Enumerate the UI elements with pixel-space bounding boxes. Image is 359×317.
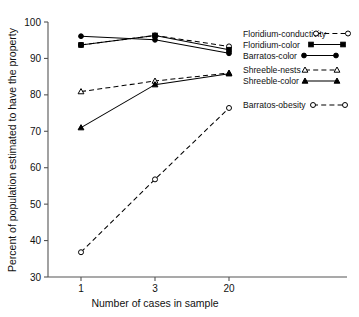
legend-label: Shreeble-color [243,76,299,86]
data-point [153,177,158,182]
legend-marker [346,31,351,36]
data-point [79,250,84,255]
x-tick-label: 1 [78,283,84,294]
line-chart: 30405060708090100 1320 Percent of popula… [0,0,359,317]
y-tick-label: 80 [30,89,42,100]
y-tick-label: 50 [30,199,42,210]
chart-container: 30405060708090100 1320 Percent of popula… [0,0,359,317]
legend-label: Floridium-color [243,40,300,50]
legend-marker [343,103,348,108]
legend-marker [302,53,307,58]
chart-background [0,0,359,317]
y-tick-label: 70 [30,126,42,137]
y-axis-title: Percent of population estimated to have … [6,27,18,272]
y-tick-label: 100 [24,17,41,28]
legend-label: Shreeble-nests [243,65,301,75]
legend-marker [334,53,339,58]
x-axis-title: Number of cases in sample [91,297,218,309]
legend-marker [311,103,316,108]
data-point [79,43,84,48]
legend-marker [314,31,319,36]
legend-marker [341,42,346,47]
legend-label: Barratos-color [243,51,297,61]
legend-marker [309,42,314,47]
data-point [227,51,232,56]
x-tick-label: 3 [152,283,158,294]
y-tick-label: 60 [30,162,42,173]
y-tick-label: 40 [30,235,42,246]
legend-label: Barratos-obesity [243,100,306,110]
data-point [153,37,158,42]
data-point [227,105,232,110]
y-tick-label: 90 [30,53,42,64]
data-point [79,34,84,39]
y-tick-label: 30 [30,272,42,283]
x-tick-label: 20 [223,283,235,294]
